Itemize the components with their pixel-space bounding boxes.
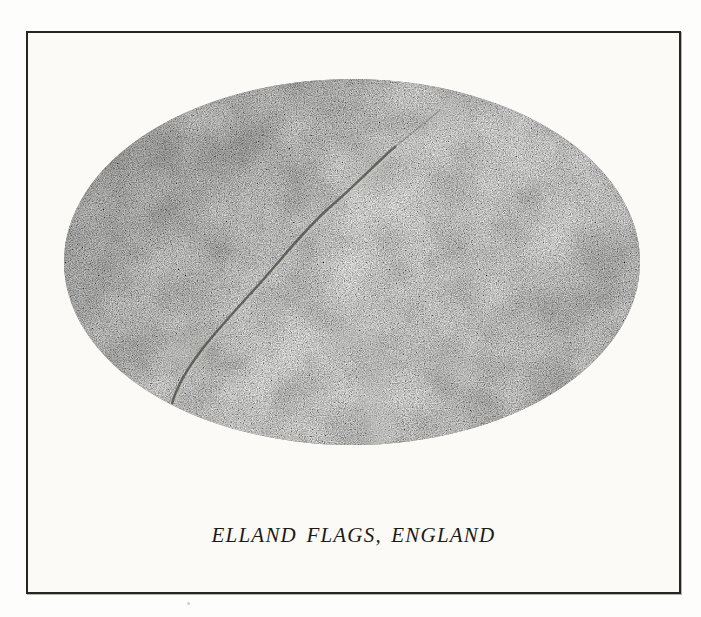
scanned-plate-page: ELLAND FLAGS, ENGLAND [0, 0, 701, 617]
plate-caption: ELLAND FLAGS, ENGLAND [28, 522, 679, 548]
stone-vignette [64, 79, 640, 445]
stone-photo [28, 33, 679, 592]
plate-frame: ELLAND FLAGS, ENGLAND [26, 31, 681, 594]
paper-speck [187, 602, 190, 605]
